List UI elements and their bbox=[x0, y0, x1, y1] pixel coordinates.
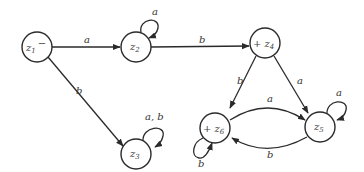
edge-label: b bbox=[199, 34, 205, 45]
edge-z6-z6-loop: b bbox=[194, 138, 212, 169]
automaton-diagram: a b a b a, b b a a b a b z1− bbox=[0, 0, 364, 172]
edge-label: b bbox=[198, 158, 204, 169]
state-z2: z2 bbox=[121, 32, 151, 62]
edge-label: b bbox=[267, 149, 273, 160]
edge-z5-z6: b bbox=[232, 137, 307, 160]
state-z4: + z4 bbox=[250, 28, 280, 58]
edge-label: a bbox=[267, 93, 273, 104]
edge-z4-z5: a bbox=[274, 56, 308, 113]
state-z5: z5 bbox=[305, 112, 335, 142]
edge-z4-z6: b bbox=[230, 56, 256, 108]
edge-label: a bbox=[336, 87, 342, 98]
edge-label: a, b bbox=[145, 111, 164, 122]
edge-z1-z3: b bbox=[48, 57, 123, 146]
edge-label: a bbox=[84, 34, 90, 45]
edge-z1-z2: a bbox=[52, 34, 120, 47]
edge-z2-z4: b bbox=[151, 34, 249, 47]
edge-label: a bbox=[152, 6, 158, 17]
edge-label: a bbox=[297, 75, 303, 86]
edge-z6-z5: a bbox=[230, 93, 305, 120]
edge-label: b bbox=[237, 75, 243, 86]
edge-z3-z3-loop: a, b bbox=[143, 111, 164, 147]
state-z1: z1− bbox=[22, 32, 52, 62]
state-z3: z3 bbox=[121, 139, 151, 169]
edge-label: b bbox=[76, 85, 82, 96]
state-z6: + z6 bbox=[200, 113, 230, 143]
